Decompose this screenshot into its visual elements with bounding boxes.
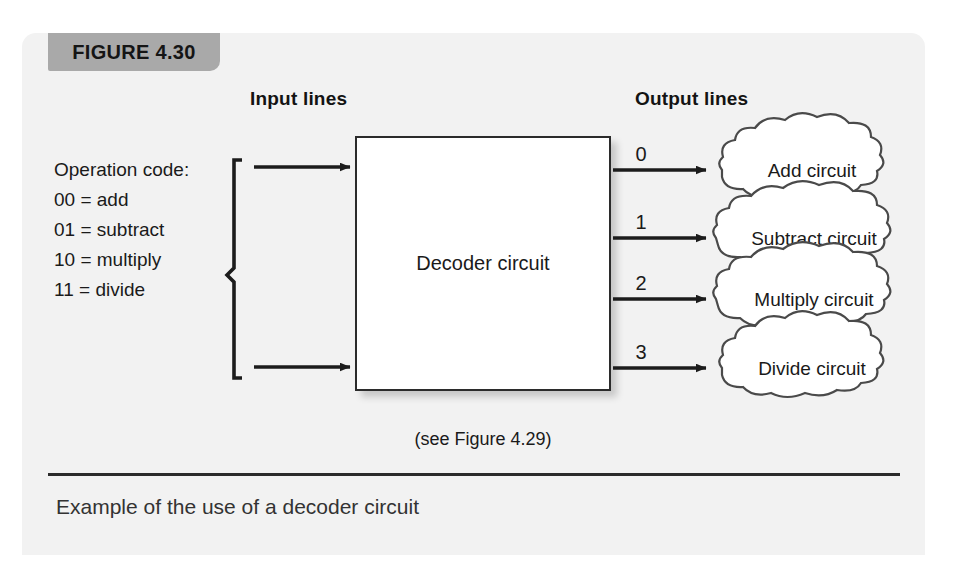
operation-code-legend: Operation code: 00 = add 01 = subtract 1… <box>54 155 254 305</box>
cloud-label: Subtract circuit <box>751 228 877 249</box>
output-line-number: 0 <box>635 143 646 165</box>
output-line-number: 1 <box>635 211 646 233</box>
output-line-number: 2 <box>635 272 646 294</box>
cloud-label: Multiply circuit <box>754 289 874 310</box>
operation-code-title: Operation code: <box>54 155 254 185</box>
figure-number-tab: FIGURE 4.30 <box>48 33 220 71</box>
cloud-label: Add circuit <box>768 160 857 181</box>
operation-code-item: 01 = subtract <box>54 215 254 245</box>
output-lines-header: Output lines <box>635 88 748 110</box>
cloud-divide-circuit: Divide circuit <box>719 311 883 397</box>
operation-code-item: 10 = multiply <box>54 245 254 275</box>
decoder-circuit-box: Decoder circuit <box>355 136 611 391</box>
caption-divider <box>48 473 900 476</box>
cloud-add-circuit: Add circuit <box>719 113 883 199</box>
figure-caption: Example of the use of a decoder circuit <box>56 495 419 519</box>
input-lines-header: Input lines <box>250 88 347 110</box>
cloud-subtract-circuit: Subtract circuit <box>713 181 890 267</box>
figure-number-label: FIGURE 4.30 <box>72 41 195 64</box>
operation-code-item: 00 = add <box>54 185 254 215</box>
see-figure-note: (see Figure 4.29) <box>355 429 611 450</box>
cloud-multiply-circuit: Multiply circuit <box>713 242 890 328</box>
figure-panel: FIGURE 4.30 Input lines Output lines Ope… <box>22 33 925 555</box>
cloud-label: Divide circuit <box>758 358 866 379</box>
output-line-number: 3 <box>635 341 646 363</box>
decoder-circuit-label: Decoder circuit <box>416 252 549 275</box>
operation-code-item: 11 = divide <box>54 275 254 305</box>
